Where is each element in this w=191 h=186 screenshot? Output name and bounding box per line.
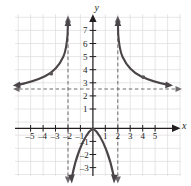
y-tick-label-2: 2 (83, 92, 88, 101)
x-tick-label--2: –2 (63, 132, 72, 141)
y-tick-label-4: 4 (83, 66, 88, 75)
x-tick-label-3: 3 (128, 132, 133, 141)
x-tick-label--5: –5 (26, 132, 35, 141)
graph-figure: –5 –4 –3 –2 –1 1 2 3 4 5 1 2 3 4 5 6 7 –… (0, 0, 191, 186)
y-tick-label--1: –1 (80, 138, 89, 147)
graph-canvas (0, 0, 191, 186)
x-tick-label--4: –4 (38, 132, 47, 141)
y-tick-label-1: 1 (83, 105, 88, 114)
y-tick-label-7: 7 (83, 26, 88, 35)
plot-background (15, 14, 181, 176)
x-axis-label: x (182, 121, 186, 131)
y-axis-label: y (95, 3, 99, 13)
y-tick-label--3: –3 (80, 164, 89, 173)
x-tick-label-1: 1 (103, 132, 108, 141)
y-tick-label-3: 3 (83, 79, 88, 88)
x-tick-label-4: 4 (140, 132, 145, 141)
x-tick-label-2: 2 (116, 132, 121, 141)
y-tick-label-5: 5 (83, 53, 88, 62)
x-tick-label-5: 5 (153, 132, 158, 141)
y-tick-label-6: 6 (83, 40, 88, 49)
x-tick-label--3: –3 (50, 132, 59, 141)
y-tick-label--2: –2 (80, 151, 89, 160)
